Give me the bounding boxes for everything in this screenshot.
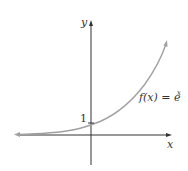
x-axis-arrow-icon — [166, 133, 172, 137]
function-label: f(x) = e — [138, 91, 181, 104]
y-axis-arrow-icon — [89, 20, 93, 26]
y-axis-label: y — [80, 16, 88, 29]
exponential-graph: y x 1 f(x) = e x — [0, 0, 188, 171]
curve-right-arrow-icon — [164, 40, 168, 47]
function-exponent: x — [177, 89, 181, 97]
curve-left-arrow-icon — [14, 132, 20, 137]
intercept-label: 1 — [80, 112, 87, 125]
x-axis-label: x — [167, 138, 174, 151]
